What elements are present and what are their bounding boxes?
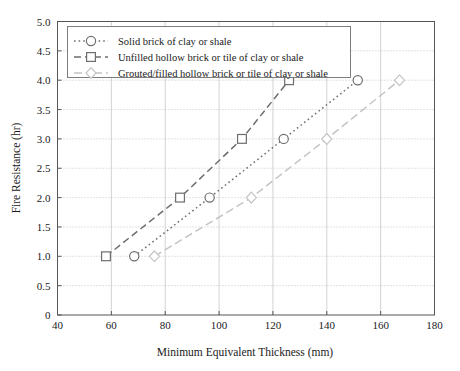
y-tick-label: 4.0 xyxy=(37,74,51,86)
data-point-marker-square xyxy=(238,135,247,144)
x-tick-label: 140 xyxy=(319,319,336,331)
y-tick-label: 0 xyxy=(45,309,51,321)
x-tick-label: 180 xyxy=(426,319,443,331)
x-tick-label: 40 xyxy=(52,319,64,331)
legend-label: Solid brick of clay or shale xyxy=(118,36,232,47)
chart-legend: Solid brick of clay or shaleUnfilled hol… xyxy=(68,27,351,80)
data-point-marker-square xyxy=(176,193,185,202)
y-tick-label: 4.5 xyxy=(37,45,51,57)
y-tick-label: 2.5 xyxy=(37,162,51,174)
y-tick-label: 1.0 xyxy=(37,250,51,262)
data-point-marker-circle xyxy=(279,134,288,143)
x-tick-label: 100 xyxy=(211,319,228,331)
fire-resistance-line-chart: 406080100120140160180 00.51.01.52.02.53.… xyxy=(0,0,460,371)
data-point-marker-circle xyxy=(130,252,139,261)
data-point-marker-square xyxy=(102,252,111,261)
data-point-marker-circle xyxy=(205,193,214,202)
x-axis-title: Minimum Equivalent Thickness (mm) xyxy=(157,346,334,359)
y-tick-label: 3.0 xyxy=(37,133,51,145)
y-tick-label: 3.5 xyxy=(37,104,51,116)
legend-label: Grouted/filled hollow brick or tile of c… xyxy=(118,68,328,79)
data-point-marker-circle xyxy=(353,76,362,85)
y-tick-label: 5.0 xyxy=(37,16,51,28)
x-tick-label: 160 xyxy=(372,319,389,331)
chart-figure: 406080100120140160180 00.51.01.52.02.53.… xyxy=(0,0,460,371)
data-point-marker-circle xyxy=(86,36,95,45)
y-tick-label: 1.5 xyxy=(37,221,51,233)
x-tick-label: 80 xyxy=(160,319,172,331)
x-tick-label: 60 xyxy=(106,319,118,331)
data-point-marker-square xyxy=(87,53,96,62)
y-axis-title: Fire Resistance (hr) xyxy=(10,122,23,213)
x-tick-label: 120 xyxy=(265,319,282,331)
y-tick-label: 0.5 xyxy=(37,280,51,292)
y-tick-label: 2.0 xyxy=(37,192,51,204)
legend-label: Unfilled hollow brick or tile of clay or… xyxy=(118,52,304,63)
